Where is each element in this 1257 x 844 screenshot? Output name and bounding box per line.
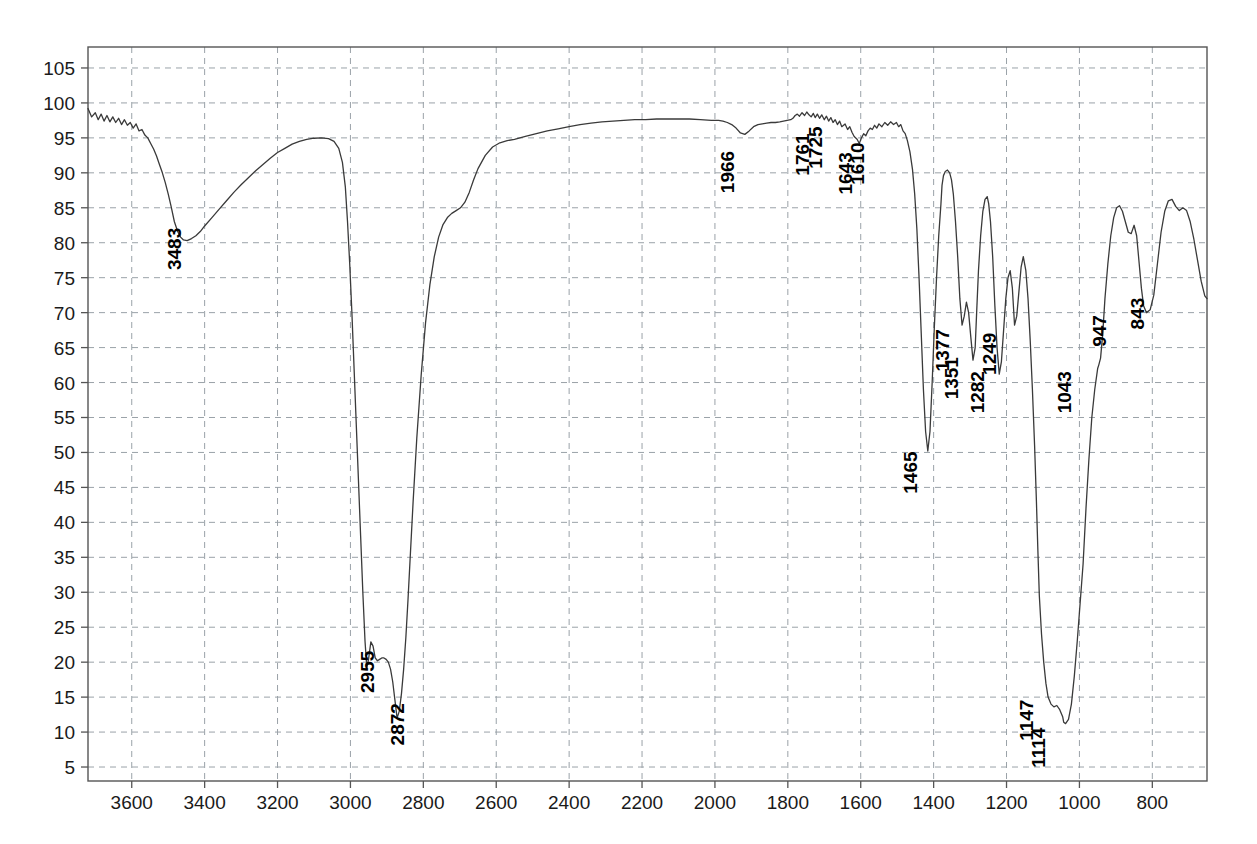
y-tick-label: 50 bbox=[54, 442, 75, 463]
y-axis-ticks bbox=[81, 68, 88, 767]
x-tick-label: 2200 bbox=[621, 792, 663, 813]
y-tick-label: 80 bbox=[54, 233, 75, 254]
y-tick-label: 15 bbox=[54, 687, 75, 708]
peak-label: 947 bbox=[1089, 315, 1110, 347]
x-tick-label: 1000 bbox=[1058, 792, 1100, 813]
y-tick-label: 65 bbox=[54, 338, 75, 359]
peak-label: 1966 bbox=[717, 151, 738, 193]
peak-label: 1249 bbox=[979, 333, 1000, 375]
peak-label: 1114 bbox=[1028, 727, 1049, 768]
y-tick-label: 30 bbox=[54, 582, 75, 603]
y-tick-label: 70 bbox=[54, 303, 75, 324]
y-tick-label: 25 bbox=[54, 617, 75, 638]
y-tick-label: 95 bbox=[54, 128, 75, 149]
y-tick-label: 5 bbox=[64, 757, 75, 778]
y-tick-label: 105 bbox=[43, 58, 75, 79]
ir-spectrum-page: 3600340032003000280026002400220020001800… bbox=[0, 0, 1257, 844]
y-tick-label: 40 bbox=[54, 512, 75, 533]
x-tick-label: 1600 bbox=[840, 792, 882, 813]
peak-label: 2955 bbox=[357, 650, 378, 693]
peak-label: 1610 bbox=[847, 142, 868, 184]
peak-label: 2872 bbox=[387, 703, 408, 745]
peak-label: 1725 bbox=[805, 126, 826, 169]
y-tick-label: 75 bbox=[54, 268, 75, 289]
x-tick-label: 2600 bbox=[475, 792, 517, 813]
peak-label: 1351 bbox=[941, 357, 962, 400]
x-tick-label: 1200 bbox=[985, 792, 1027, 813]
y-tick-label: 20 bbox=[54, 652, 75, 673]
x-tick-label: 3400 bbox=[183, 792, 225, 813]
peak-label: 1043 bbox=[1054, 371, 1075, 413]
y-tick-label: 90 bbox=[54, 163, 75, 184]
x-tick-label: 3200 bbox=[256, 792, 298, 813]
peak-label: 1282 bbox=[967, 371, 988, 413]
y-tick-label: 35 bbox=[54, 547, 75, 568]
y-tick-label: 10 bbox=[54, 722, 75, 743]
y-tick-label: 60 bbox=[54, 373, 75, 394]
peak-label: 1465 bbox=[900, 451, 921, 494]
x-tick-label: 1400 bbox=[912, 792, 954, 813]
x-tick-label: 2800 bbox=[402, 792, 444, 813]
ir-spectrum-chart: 3600340032003000280026002400220020001800… bbox=[0, 0, 1257, 844]
x-tick-label: 1800 bbox=[767, 792, 809, 813]
x-tick-label: 2000 bbox=[694, 792, 736, 813]
y-tick-label: 55 bbox=[54, 407, 75, 428]
y-tick-label: 85 bbox=[54, 198, 75, 219]
x-axis-tick-labels: 3600340032003000280026002400220020001800… bbox=[111, 792, 1169, 813]
x-tick-label: 3000 bbox=[329, 792, 371, 813]
peak-label: 3483 bbox=[164, 228, 185, 270]
peak-label: 843 bbox=[1127, 298, 1148, 330]
x-tick-label: 2400 bbox=[548, 792, 590, 813]
y-tick-label: 45 bbox=[54, 477, 75, 498]
y-tick-label: 100 bbox=[43, 93, 75, 114]
x-tick-label: 3600 bbox=[111, 792, 153, 813]
x-tick-label: 800 bbox=[1136, 792, 1168, 813]
